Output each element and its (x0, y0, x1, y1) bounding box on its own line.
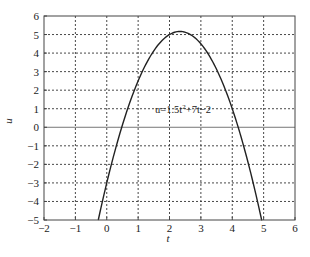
y-tick-label: −2 (27, 158, 39, 170)
y-tick-label: 2 (34, 84, 40, 96)
x-tick-label: −2 (38, 222, 50, 234)
y-tick-label: 4 (34, 47, 40, 59)
chart: −2−10123456 −5−4−3−2−10123456 t u u=1.5t… (0, 0, 310, 257)
y-tick-label: 3 (34, 66, 40, 78)
y-tick-label: 0 (34, 121, 40, 133)
grid-lines (44, 16, 295, 220)
y-tick-label: −3 (27, 177, 39, 189)
equation-annotation: u=1.5t2+7t−2 (155, 103, 211, 115)
x-tick-label: 5 (261, 222, 267, 234)
y-tick-label: 5 (34, 29, 40, 41)
equation-prefix: u=1.5t (155, 104, 182, 115)
y-axis-label: u (2, 118, 14, 124)
x-tick-label: −1 (70, 222, 82, 234)
x-tick-label: 1 (135, 222, 141, 234)
x-tick-label: 6 (292, 222, 298, 234)
y-tick-label: −5 (27, 214, 39, 226)
x-tick-label: 0 (104, 222, 110, 234)
y-tick-label: −1 (27, 140, 39, 152)
y-tick-label: −4 (27, 195, 39, 207)
y-tick-label: 1 (34, 103, 40, 115)
equation-suffix: +7t−2 (186, 104, 211, 115)
data-curve (98, 31, 261, 220)
y-tick-label: 6 (34, 10, 40, 22)
x-tick-label: 4 (230, 222, 236, 234)
x-tick-label: 3 (198, 222, 204, 234)
